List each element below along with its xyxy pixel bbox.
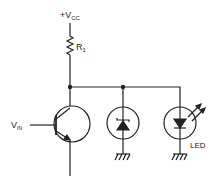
top-bus-wire [70, 87, 180, 107]
led-diode [164, 104, 205, 160]
supply-label: +VCC [60, 10, 81, 21]
junction-dot [68, 85, 72, 89]
ground-icon [115, 154, 130, 160]
resistor-r1 [67, 36, 73, 55]
emitter-arrow [64, 135, 70, 140]
input-label: VIN [11, 120, 22, 131]
ground-icon [172, 154, 187, 160]
zener-diode [107, 107, 139, 160]
npn-transistor [30, 87, 90, 176]
led-label: LED [190, 141, 206, 150]
light-emission-arrows-icon [188, 104, 205, 121]
circuit-diagram: +VCC R1 VIN LED [0, 0, 218, 183]
junction-dot [121, 85, 125, 89]
resistor-label: R1 [76, 42, 87, 53]
